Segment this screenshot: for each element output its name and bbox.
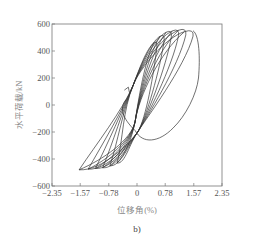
- x-tick-label: −2.35: [42, 188, 62, 198]
- origin-kink: [124, 87, 129, 92]
- hysteresis-loop: [103, 31, 172, 167]
- y-axis-label: 水平荷载/kN: [14, 81, 24, 130]
- x-tick-label: 0.78: [158, 188, 173, 198]
- x-tick-label: −0.78: [99, 188, 119, 198]
- hysteresis-loop: [79, 31, 193, 170]
- hysteresis-curves: [79, 29, 199, 169]
- x-axis: −2.35−1.57−0.7800.781.572.35: [42, 183, 229, 198]
- y-tick-label: 200: [37, 73, 50, 83]
- hysteresis-chart: 6004002000−200−400−600 −2.35−1.57−0.7800…: [0, 0, 271, 242]
- figure-caption: b): [133, 224, 141, 234]
- plot-frame: [52, 24, 222, 186]
- x-tick-label: 0: [135, 188, 139, 198]
- y-tick-label: 600: [37, 19, 50, 29]
- y-tick-label: 0: [46, 100, 50, 110]
- x-axis-label: 位移角(%): [117, 205, 157, 215]
- x-tick-label: 1.57: [186, 188, 201, 198]
- hysteresis-loop: [95, 30, 178, 168]
- x-tick-label: −1.57: [70, 188, 90, 198]
- y-tick-label: −200: [32, 127, 50, 137]
- y-tick-label: 400: [37, 46, 50, 56]
- hysteresis-loop: [88, 29, 186, 169]
- x-tick-label: 2.35: [215, 188, 230, 198]
- y-tick-label: −400: [32, 154, 50, 164]
